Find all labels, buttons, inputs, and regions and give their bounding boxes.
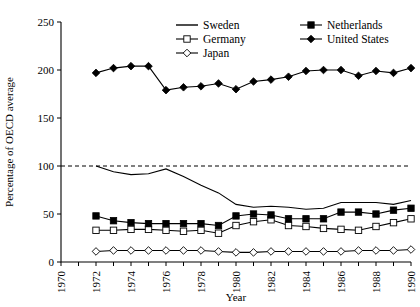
x-axis-tick-label: 1972	[90, 271, 102, 293]
data-point-netherlands	[285, 216, 291, 222]
data-point-germany	[338, 226, 344, 232]
legend-label-germany: Germany	[203, 33, 246, 46]
data-point-united-states	[145, 62, 153, 70]
data-point-germany	[180, 228, 186, 234]
data-point-united-states	[302, 67, 310, 75]
data-point-germany	[355, 227, 361, 233]
data-point-united-states	[285, 73, 293, 81]
data-point-united-states	[180, 83, 188, 91]
legend-label-united-states: United States	[327, 33, 389, 45]
data-point-germany	[373, 223, 379, 229]
y-axis-tick-label: 0	[49, 256, 55, 268]
data-point-germany	[320, 225, 326, 231]
x-axis-tick-label: 1970	[55, 271, 67, 294]
x-axis-tick-label: 1980	[230, 271, 242, 294]
data-point-netherlands	[250, 211, 256, 217]
data-point-germany	[303, 223, 309, 229]
legend-label-japan: Japan	[203, 47, 229, 60]
x-axis-tick-label: 1986	[335, 271, 347, 294]
data-point-netherlands	[180, 220, 186, 226]
data-point-japan	[372, 247, 380, 255]
data-point-netherlands	[233, 213, 239, 219]
data-point-netherlands	[215, 222, 221, 228]
data-point-united-states	[197, 83, 205, 91]
y-axis-tick-label: 100	[38, 160, 55, 172]
legend-label-sweden: Sweden	[203, 19, 240, 31]
data-point-japan	[197, 247, 205, 255]
data-point-japan	[127, 247, 135, 255]
y-axis-tick-label: 150	[38, 112, 55, 124]
data-point-germany	[233, 222, 239, 228]
data-point-japan	[250, 249, 258, 257]
data-point-netherlands	[145, 220, 151, 226]
x-axis-tick-label: 1974	[125, 271, 137, 294]
data-point-japan	[302, 248, 310, 256]
data-point-netherlands	[390, 207, 396, 213]
legend-marker-netherlands	[308, 22, 314, 28]
data-point-netherlands	[163, 220, 169, 226]
data-point-netherlands	[373, 211, 379, 217]
x-axis-title: Year	[226, 291, 247, 303]
data-point-japan	[390, 247, 398, 255]
data-point-germany	[215, 230, 221, 236]
data-point-netherlands	[268, 212, 274, 218]
data-point-japan	[267, 248, 275, 256]
data-point-germany	[390, 219, 396, 225]
data-point-united-states	[215, 80, 223, 88]
legend-marker-germany	[184, 36, 190, 42]
data-point-germany	[250, 218, 256, 224]
x-axis-tick-label: 1976	[160, 271, 172, 294]
data-point-united-states	[320, 66, 328, 74]
data-point-united-states	[267, 76, 275, 84]
data-point-germany	[110, 227, 116, 233]
x-axis-tick-label: 1988	[370, 271, 382, 294]
data-point-united-states	[110, 64, 118, 72]
series-line-sweden	[96, 166, 411, 209]
data-point-japan	[162, 247, 170, 255]
data-point-japan	[232, 249, 240, 257]
data-point-united-states	[127, 62, 135, 70]
data-point-netherlands	[338, 209, 344, 215]
data-point-netherlands	[320, 216, 326, 222]
data-point-netherlands	[408, 205, 414, 211]
data-point-japan	[145, 247, 153, 255]
data-point-japan	[180, 247, 188, 255]
data-point-united-states	[162, 86, 170, 94]
data-point-japan	[285, 248, 293, 256]
data-point-united-states	[372, 67, 380, 75]
data-point-japan	[92, 248, 100, 256]
data-point-united-states	[92, 69, 100, 77]
y-axis-title: Percentage of OECD average	[3, 77, 15, 207]
data-point-japan	[337, 248, 345, 256]
data-point-netherlands	[93, 213, 99, 219]
data-point-netherlands	[355, 209, 361, 215]
data-point-netherlands	[128, 219, 134, 225]
y-axis-tick-label: 50	[43, 208, 55, 220]
data-point-japan	[215, 248, 223, 256]
data-point-netherlands	[198, 220, 204, 226]
x-axis-tick-label: 1984	[300, 271, 312, 294]
legend-label-netherlands: Netherlands	[327, 19, 383, 31]
legend-marker-united-states	[307, 35, 315, 43]
data-point-japan	[407, 246, 415, 254]
data-point-united-states	[250, 78, 258, 86]
data-point-japan	[355, 247, 363, 255]
data-point-united-states	[232, 85, 240, 93]
data-point-germany	[93, 227, 99, 233]
data-point-united-states	[337, 66, 345, 74]
chart-figure: 050100150200250Percentage of OECD averag…	[0, 0, 420, 307]
data-point-germany	[128, 226, 134, 232]
x-axis-tick-label: 1978	[195, 271, 207, 294]
data-point-united-states	[407, 64, 415, 72]
y-axis-tick-label: 200	[38, 64, 55, 76]
x-axis-tick-label: 1990	[405, 271, 417, 294]
data-point-united-states	[390, 69, 398, 77]
data-point-germany	[198, 227, 204, 233]
data-point-germany	[163, 227, 169, 233]
data-point-netherlands	[303, 216, 309, 222]
legend-marker-japan	[183, 49, 191, 57]
data-point-netherlands	[110, 218, 116, 224]
data-point-united-states	[355, 72, 363, 80]
data-point-germany	[408, 216, 414, 222]
y-axis-tick-label: 250	[38, 16, 55, 28]
